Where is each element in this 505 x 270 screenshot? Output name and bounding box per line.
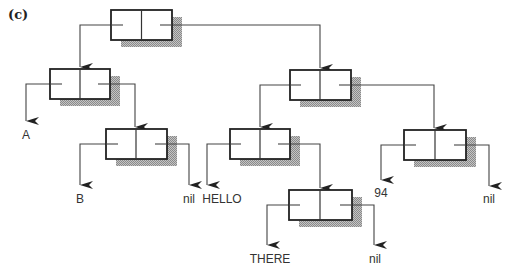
leaf-hello: HELLO [202,192,241,206]
leaf-b: B [76,192,84,206]
pointer-root-cdr [160,25,320,68]
leaf-94: 94 [374,186,388,200]
leaf-nil-l2: nil [183,192,195,206]
shadows [60,17,476,227]
panel-label: (c) [8,7,28,22]
cons-cell-diagram: (c) [0,0,505,270]
leaf-nil-r4: nil [369,252,381,266]
leaf-nil-r3: nil [483,192,495,206]
leaf-there: THERE [250,252,291,266]
leaf-a: A [22,128,30,142]
pointer-stubs [50,25,466,205]
